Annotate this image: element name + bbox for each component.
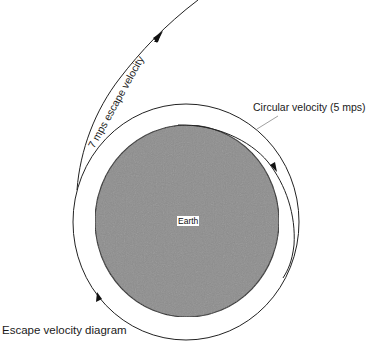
diagram-caption: Escape velocity diagram	[2, 324, 127, 336]
earth-label: Earth	[177, 216, 199, 226]
circular-velocity-leader-line	[257, 116, 278, 129]
circular-velocity-label: Circular velocity (5 mps)	[253, 101, 366, 113]
